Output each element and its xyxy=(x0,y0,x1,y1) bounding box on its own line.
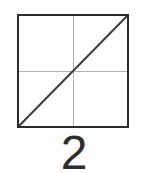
caption-label: 2 xyxy=(0,129,144,173)
diagonal-line xyxy=(19,16,127,126)
figure-container: 2 xyxy=(0,0,144,173)
square-outline xyxy=(17,14,129,128)
caption: 2 xyxy=(0,129,144,173)
